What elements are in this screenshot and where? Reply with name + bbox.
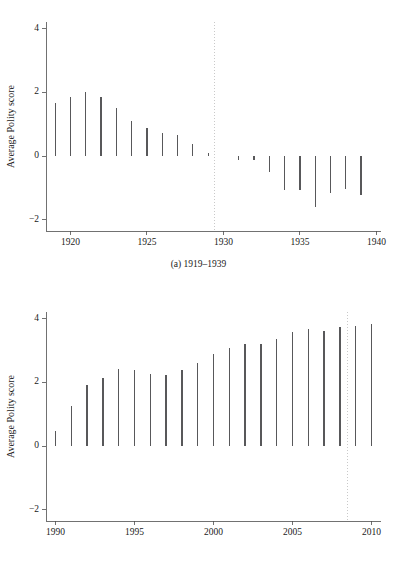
y-tick-label: 2 [34,376,39,386]
y-tick-label: 2 [34,86,39,96]
x-tick-label: 1940 [367,237,386,247]
y-tick-label: 4 [34,23,39,33]
x-tick-label: 1925 [137,237,156,247]
y-axis-label: Average Polity score [5,374,16,458]
y-axis-label: Average Polity score [5,84,16,168]
x-tick-label: 1935 [290,237,309,247]
y-tick-label: 0 [34,440,39,450]
plot-area-b: Average Polity score−2024199019952000200… [0,290,397,545]
x-tick-label: 1930 [214,237,233,247]
panel-a-caption: (a) 1919–1939 [0,259,397,269]
x-tick-label: 2005 [283,527,302,537]
chart-panel-b: Average Polity score−2024199019952000200… [0,290,397,580]
x-tick-label: 2000 [204,527,223,537]
chart-panel-a: Average Polity score−2024192019251930193… [0,0,397,290]
x-tick-label: 1920 [61,237,80,247]
y-tick-label: 0 [34,150,39,160]
x-tick-label: 2010 [362,527,381,537]
y-tick-label: −2 [29,504,39,514]
plot-area-a: Average Polity score−2024192019251930193… [0,0,397,258]
y-tick-label: 4 [34,313,39,323]
x-tick-label: 1990 [46,527,65,537]
y-tick-label: −2 [29,214,39,224]
x-tick-label: 1995 [125,527,144,537]
